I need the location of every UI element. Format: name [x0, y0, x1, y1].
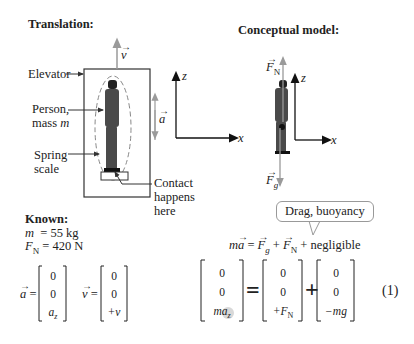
person-label: Person,mass m — [32, 102, 69, 130]
person-figure — [104, 80, 120, 172]
model-axis-z-label: z — [301, 71, 306, 85]
acceleration-label: →a — [159, 112, 165, 126]
lhs-vector: 0 0 maz — [202, 260, 242, 322]
axis-x-label: x — [238, 131, 244, 145]
contact-label: Contacthappenshere — [154, 176, 195, 218]
elevator-label: Elevator — [28, 67, 70, 81]
newton-second-law: →ma = →Fg + →FN + negligible — [229, 238, 360, 257]
known-normal-force: FN = 420 N — [25, 239, 83, 258]
equation-number: (1) — [382, 283, 398, 299]
known-title: Known: — [25, 212, 68, 227]
axis-z-label: z — [182, 69, 187, 83]
known-mass: m = 55 kg — [25, 226, 79, 240]
normal-force-vector: 0 0 +FN — [264, 260, 302, 322]
translation-title: Translation: — [28, 17, 94, 32]
spring-scale — [101, 172, 128, 180]
velocity-label: →v — [121, 48, 127, 62]
gravity-force-label: →Fg — [266, 173, 278, 192]
a-vector-name: →a = — [20, 287, 36, 301]
normal-force-label: →FN — [266, 60, 280, 79]
equals-sign: = — [246, 277, 260, 304]
drag-buoyancy-callout: Drag, buoyancy — [276, 201, 374, 222]
gravity-force-vector: 0 0 −mg — [318, 260, 354, 322]
a-vector: 0 0 az — [40, 266, 66, 322]
spring-scale-label: Springscale — [34, 148, 67, 176]
plus-sign: + — [305, 276, 319, 303]
v-vector-name: →v = — [82, 287, 98, 301]
conceptual-model-title: Conceptual model: — [238, 23, 339, 38]
v-vector: 0 0 +v — [102, 266, 126, 322]
model-axis-x-label: x — [331, 133, 337, 147]
